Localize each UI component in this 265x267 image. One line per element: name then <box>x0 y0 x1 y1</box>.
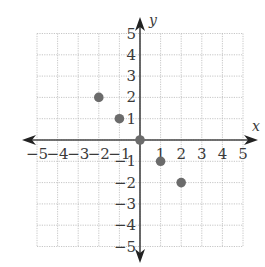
data-point <box>94 93 104 103</box>
x-tick-label: −3 <box>67 145 89 163</box>
coordinate-plane: −5−4−3−2−112345−5−4−3−2−112345 x y <box>0 0 265 267</box>
x-tick-label: −5 <box>26 145 48 163</box>
y-axis-label: y <box>148 12 158 28</box>
x-tick-label: 2 <box>176 145 186 163</box>
data-point <box>156 157 166 167</box>
y-tick-label: −5 <box>114 238 136 256</box>
data-point <box>176 178 186 188</box>
y-tick-label: −2 <box>114 174 136 192</box>
y-tick-label: 5 <box>126 25 136 43</box>
x-tick-label: −2 <box>88 145 110 163</box>
y-tick-label: 2 <box>126 88 136 106</box>
data-point <box>115 114 125 124</box>
y-tick-label: −3 <box>114 195 136 213</box>
y-tick-label: 1 <box>126 110 136 128</box>
y-tick-label: −1 <box>114 152 136 170</box>
x-axis-label: x <box>252 118 260 134</box>
y-tick-label: −4 <box>114 216 136 234</box>
x-tick-label: 3 <box>197 145 207 163</box>
x-tick-label: 5 <box>238 145 248 163</box>
y-tick-label: 4 <box>126 46 136 64</box>
x-tick-label: 4 <box>218 145 228 163</box>
x-tick-label: −4 <box>47 145 69 163</box>
data-point <box>135 135 145 145</box>
y-tick-label: 3 <box>126 67 136 85</box>
